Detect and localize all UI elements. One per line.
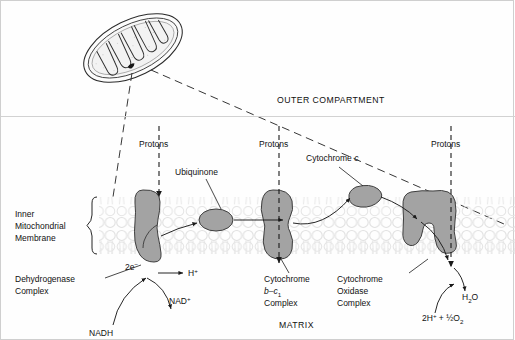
- diagram-canvas: OUTER COMPARTMENT Inner Mitochondrial Me…: [1, 1, 515, 340]
- bc1-label-line1: Cytochrome: [264, 274, 310, 284]
- complex-dehydrogenase[interactable]: [135, 190, 162, 262]
- membrane-label: Inner Mitochondrial Membrane: [15, 209, 66, 243]
- oxygen-input-arrow: [435, 284, 454, 313]
- nad-plus-label: NAD+: [169, 295, 191, 306]
- dehydrogenase-leader: [105, 265, 141, 278]
- dehydrogenase-label-line1: Dehydrogenase: [15, 274, 75, 284]
- bc1-leader: [281, 259, 289, 273]
- proton-label-1: Protons: [139, 139, 168, 149]
- svg-text:Membrane: Membrane: [15, 233, 56, 243]
- cytochrome-c-label: Cytochrome c: [306, 153, 359, 163]
- complex-cytochrome-bc1[interactable]: [261, 190, 292, 259]
- svg-text:Inner: Inner: [15, 209, 35, 219]
- nadh-label: NADH: [89, 328, 113, 338]
- nad-output-arrow: [147, 278, 171, 309]
- oxygen-substrate-label: 2H+ + ½O2: [422, 312, 464, 325]
- outer-compartment-label: OUTER COMPARTMENT: [277, 95, 385, 105]
- oxidase-label-line3: Complex: [337, 298, 371, 308]
- bc1-label-line3: Complex: [264, 298, 298, 308]
- oxidase-label-line1: Cytochrome: [337, 274, 383, 284]
- cytochrome-c-leader: [339, 167, 363, 186]
- svg-text:Mitochondrial: Mitochondrial: [15, 221, 66, 231]
- matrix-label: MATRIX: [279, 320, 314, 330]
- dehydrogenase-label-line2: Complex: [15, 286, 49, 296]
- ubiquinone-carrier[interactable]: [199, 209, 233, 231]
- proton-label-3: Protons: [431, 139, 460, 149]
- water-output-arrow: [454, 268, 465, 291]
- proton-molecule-label: H+: [188, 267, 198, 278]
- membrane-brace: [87, 197, 97, 254]
- oxidase-leader: [409, 259, 428, 273]
- bc1-label-line2: b–c1: [264, 286, 282, 298]
- nadh-input-arrow: [113, 278, 146, 325]
- proton-label-2: Protons: [259, 139, 288, 149]
- water-label: H2O: [462, 292, 479, 304]
- oxidase-label-line2: Oxidase: [337, 286, 368, 296]
- ubiquinone-label: Ubiquinone: [175, 167, 218, 177]
